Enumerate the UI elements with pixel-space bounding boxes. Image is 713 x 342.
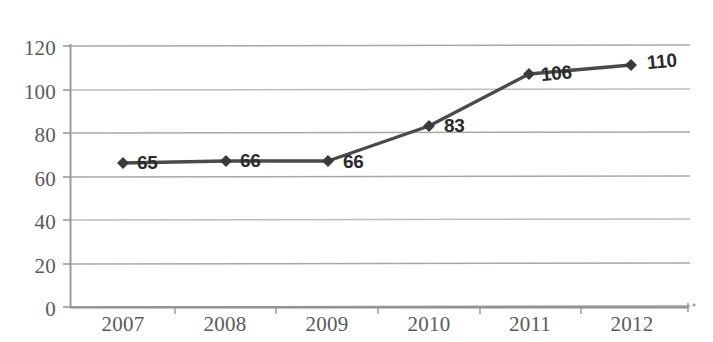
y-tick-label-40: 40 bbox=[4, 210, 56, 235]
data-label-2012: 110 bbox=[646, 49, 678, 74]
y-tick-label-0: 0 bbox=[4, 297, 56, 322]
x-tick-label-2008: 2008 bbox=[180, 312, 270, 337]
data-label-2008: 66 bbox=[240, 150, 261, 172]
data-label-2007: 65 bbox=[137, 152, 158, 174]
gridlines bbox=[70, 45, 690, 307]
data-point-2007 bbox=[117, 157, 129, 169]
y-tick-label-20: 20 bbox=[4, 254, 56, 279]
data-point-2008 bbox=[220, 155, 232, 167]
line-chart: 120 100 80 60 40 20 0 2007 2008 2009 201… bbox=[0, 0, 713, 342]
data-point-2011 bbox=[523, 68, 535, 80]
x-tick-label-2011: 2011 bbox=[485, 312, 575, 337]
data-point-2012 bbox=[625, 59, 637, 71]
data-label-2011: 106 bbox=[540, 61, 573, 86]
y-tick-label-80: 80 bbox=[4, 123, 56, 148]
data-point-2010 bbox=[423, 120, 435, 132]
x-tick-label-2007: 2007 bbox=[78, 312, 168, 337]
data-label-2010: 83 bbox=[444, 115, 465, 137]
data-label-2009: 66 bbox=[343, 151, 364, 173]
y-tick-label-60: 60 bbox=[4, 167, 56, 192]
x-tick-label-2009: 2009 bbox=[282, 312, 372, 337]
x-tick-label-2010: 2010 bbox=[384, 312, 474, 337]
y-tick-label-100: 100 bbox=[4, 80, 56, 105]
x-tick-label-2012: 2012 bbox=[587, 312, 677, 337]
data-point-2009 bbox=[322, 155, 334, 167]
y-tick-label-120: 120 bbox=[4, 36, 56, 61]
y-axis-ticks bbox=[63, 46, 70, 307]
